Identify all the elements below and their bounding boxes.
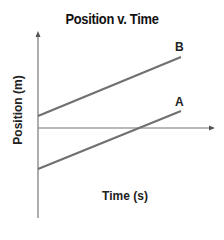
x-axis (38, 126, 215, 131)
line-a (38, 111, 181, 169)
line-b-label: B (175, 40, 184, 54)
line-b (38, 57, 181, 116)
x-axis-label: Time (s) (80, 189, 170, 203)
x-axis-arrow-icon (209, 126, 215, 131)
y-axis (36, 31, 41, 218)
line-a-label: A (175, 95, 184, 109)
y-axis-label: Position (m) (11, 67, 25, 153)
y-axis-arrow-icon (36, 31, 41, 37)
